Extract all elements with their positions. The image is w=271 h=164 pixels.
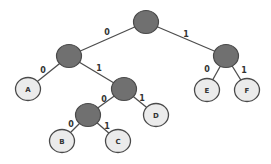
internal-circle (57, 45, 82, 68)
internal-node-root (134, 11, 159, 34)
edge-label-n01-D: 1 (139, 94, 145, 103)
edge-label-n1-E: 0 (204, 65, 210, 74)
node-label-F: F (245, 87, 250, 95)
edge-label-n0-n01: 1 (96, 64, 102, 73)
node-label-D: D (153, 112, 159, 120)
leaf-node-A: A (16, 78, 41, 101)
internal-circle (112, 78, 137, 101)
node-label-E: E (205, 87, 210, 95)
nodes-layer: AEFDBC (16, 11, 260, 153)
internal-circle (214, 45, 239, 68)
internal-node-n010 (76, 104, 101, 127)
edge-root-n1 (146, 22, 226, 56)
leaf-node-B: B (50, 130, 75, 153)
leaf-node-C: C (106, 130, 131, 153)
edge-label-n01-n010: 0 (101, 95, 107, 104)
internal-node-n01 (112, 78, 137, 101)
edge-label-root-n1: 1 (183, 30, 189, 39)
node-label-C: C (115, 138, 120, 146)
internal-node-n1 (214, 45, 239, 68)
node-label-B: B (59, 138, 64, 146)
leaf-node-D: D (144, 104, 169, 127)
edge-label-n1-F: 1 (241, 66, 247, 75)
edge-label-n010-B: 0 (68, 120, 74, 129)
huffman-tree-diagram: 0101010101 AEFDBC (0, 0, 271, 164)
edge-label-root-n0: 0 (104, 28, 110, 37)
leaf-node-F: F (235, 79, 260, 102)
internal-circle (134, 11, 159, 34)
node-label-A: A (25, 86, 31, 94)
edge-label-n0-A: 0 (40, 66, 46, 75)
internal-circle (76, 104, 101, 127)
internal-node-n0 (57, 45, 82, 68)
edge-label-n010-C: 1 (104, 122, 110, 131)
leaf-node-E: E (195, 79, 220, 102)
